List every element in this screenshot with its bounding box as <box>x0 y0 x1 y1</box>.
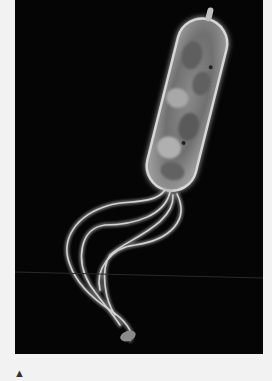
micrograph-image <box>15 0 263 354</box>
figure-caption: ▲ <box>14 363 31 381</box>
cell-body <box>139 1 237 198</box>
bacterium-illustration <box>15 0 263 354</box>
flagella <box>67 190 181 343</box>
triangle-marker-icon: ▲ <box>14 367 25 379</box>
